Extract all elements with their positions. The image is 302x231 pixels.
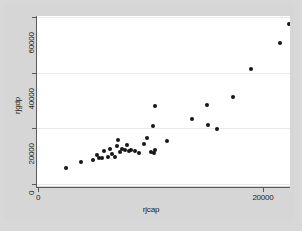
data-point [137,151,141,155]
data-point [249,67,253,71]
y-tick-mark [32,73,36,74]
y-tick-mark [32,128,36,129]
data-point [123,148,127,152]
x-axis-title: rjcap [0,205,302,214]
y-tick-mark [32,17,36,18]
y-tick-label: 40000 [27,88,36,109]
data-point [102,149,106,153]
data-point [142,142,146,146]
y-axis-line [36,16,37,187]
data-point [190,117,194,121]
gridline-y [37,184,290,185]
gridline-y [37,128,290,129]
data-point [106,155,110,159]
data-point [278,41,282,45]
gridline-y [37,73,290,74]
data-point [287,22,290,26]
data-point [231,95,235,99]
x-tick-label: 0 [36,193,40,202]
y-tick-label: 60000 [27,32,36,53]
data-point [64,166,68,170]
x-axis-line [36,187,290,188]
data-point [113,155,117,159]
data-point [205,103,209,107]
x-tick-label: 20000 [252,193,273,202]
figure-canvas: 0200004000060000020000 rjgdp rjcap [0,0,302,231]
data-point [206,123,210,127]
data-point [108,147,112,151]
data-point [116,138,120,142]
data-point [165,139,169,143]
gridline-y [37,17,290,18]
data-point [153,148,157,152]
y-axis-title: rjgdp [13,97,22,114]
data-point [151,124,155,128]
data-point [125,143,129,147]
data-point [215,127,219,131]
y-tick-label: 20000 [27,143,36,164]
data-point [100,156,104,160]
data-point [91,158,95,162]
data-point [115,144,119,148]
data-point [133,149,137,153]
y-tick-label: 0 [27,191,36,195]
y-tick-mark [32,184,36,185]
data-point [153,104,157,108]
data-point [145,136,149,140]
x-tick-mark [38,188,39,192]
x-tick-mark [263,188,264,192]
data-point [79,160,83,164]
scatter-plot-area [37,16,290,186]
